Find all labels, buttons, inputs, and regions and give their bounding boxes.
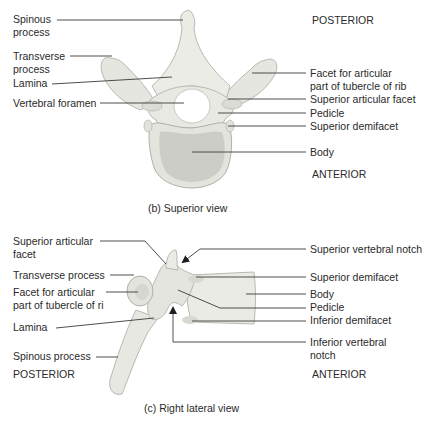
label-anterior-top: ANTERIOR — [312, 168, 366, 181]
label-anterior-bottom: ANTERIOR — [312, 368, 366, 381]
label-lat-spinous-process: Spinous process — [13, 350, 91, 363]
label-superior-vertebral-notch: Superior vertebral notch — [310, 243, 422, 256]
vertebral-foramen — [174, 89, 210, 123]
caption-lateral-view: (c) Right lateral view — [144, 402, 239, 414]
label-lamina: Lamina — [13, 77, 47, 90]
label-lat-superior-demifacet: Superior demifacet — [310, 271, 398, 284]
label-lat-lamina: Lamina — [13, 321, 47, 334]
label-lat-pedicle: Pedicle — [310, 301, 344, 314]
label-spinous-process: Spinous process — [13, 13, 51, 38]
superior-articular-facet-left — [142, 101, 162, 111]
body-surface — [159, 131, 225, 182]
lateral-spinous-process — [110, 310, 158, 394]
label-vertebral-foramen: Vertebral foramen — [13, 97, 96, 110]
label-pedicle: Pedicle — [310, 107, 344, 120]
label-body: Body — [310, 146, 334, 159]
label-inferior-vertebral-notch: Inferior vertebral notch — [310, 336, 386, 361]
label-posterior-bottom: POSTERIOR — [13, 368, 75, 381]
label-lat-transverse-process: Transverse process — [13, 269, 105, 282]
label-posterior-top: POSTERIOR — [312, 14, 374, 27]
caption-superior-view: (b) Superior view — [148, 202, 227, 214]
superior-articular-facet-right — [222, 99, 242, 109]
label-lat-superior-articular-facet: Superior articular facet — [13, 235, 93, 260]
label-facet-tubercle-rib: Facet for articular part of tubercle of … — [310, 67, 406, 92]
label-inferior-demifacet: Inferior demifacet — [310, 314, 391, 327]
lateral-superior-articular-process — [166, 250, 178, 270]
label-superior-articular-facet: Superior articular facet — [310, 93, 416, 106]
lateral-view-vertebra — [110, 250, 256, 394]
label-lat-facet-tubercle-rib: Facet for articular part of tubercle of … — [13, 286, 103, 311]
label-superior-demifacet: Superior demifacet — [310, 120, 398, 133]
label-transverse-process: Transverse process — [13, 50, 65, 75]
label-lat-body: Body — [310, 288, 334, 301]
